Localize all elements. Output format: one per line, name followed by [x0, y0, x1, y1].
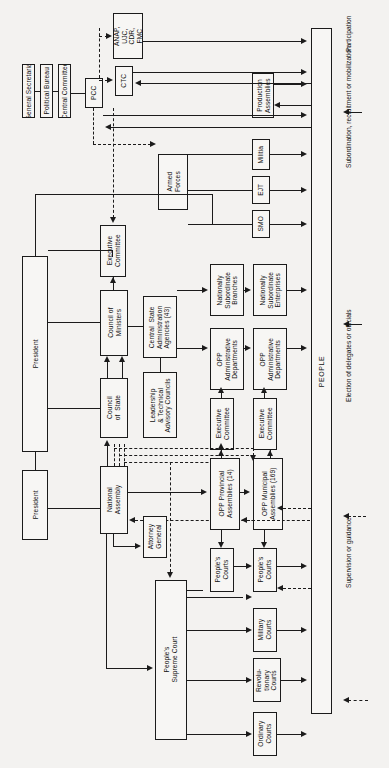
opp-provincial-label: OPP Provincial Assemblies (14): [217, 470, 232, 519]
box-central-committee: Central Committee: [58, 64, 71, 118]
arrow-execmun-oppadm: [261, 387, 267, 393]
box-president-top: President: [22, 256, 48, 452]
box-revolutionary-courts: Revolu- tionary Courts: [253, 658, 281, 702]
arrow-na-cos: [104, 440, 110, 446]
connector-pcc-people: [103, 115, 304, 116]
arrow-pcc-ctc: [107, 77, 113, 83]
arrow-cos-com-a: [104, 356, 110, 362]
pcc-label: PCC: [90, 86, 98, 100]
connector-ctc-people: [133, 72, 304, 73]
arrow-revolutionary-people: [301, 677, 307, 683]
arrow-supervision-psc: [167, 572, 173, 578]
connector-oppmun-oppprov-dash: [247, 520, 280, 521]
arrow-psc-pcmun: [246, 594, 252, 600]
peoples-courts-mun-label: People's Courts: [257, 557, 272, 583]
connector-af-smo: [188, 224, 252, 225]
connector-pcc-af-v: [93, 108, 94, 144]
national-assembly-label: National Assembly: [106, 485, 121, 514]
arrow-execprov-oppadm: [218, 387, 224, 393]
connector-na-ag-v: [113, 534, 114, 546]
arrow-oppprov-oppmun: [244, 489, 250, 495]
arrow-people-prodasm: [274, 102, 280, 108]
connector-pcc-af-h: [93, 144, 151, 145]
arrow-csaa-nsb: [202, 287, 208, 293]
box-anap-ujc-cdr-fmc: ANAP, UJC, CDR, FMC: [113, 13, 143, 59]
connector-psc-ordinary: [187, 734, 248, 735]
connector-ordinary-people: [277, 734, 304, 735]
exec-committee-mun-label: Executive Committee: [257, 408, 272, 441]
connector-pres-exec-v: [112, 250, 113, 257]
militia-label: Militia: [257, 146, 265, 164]
connector-oppprov-pcprov: [221, 530, 222, 542]
general-secretariat-label: General Secretariat: [25, 64, 33, 118]
connector-people-pcmun: [283, 588, 311, 589]
arrow-com-exec: [110, 277, 116, 283]
box-ordinary-courts: Ordinary Courts: [253, 712, 277, 756]
box-attorney-general: Attorney General: [143, 516, 167, 558]
box-military-courts: Military Courts: [253, 608, 277, 652]
central-state-agencies-label: Central State Administration Agencies (4…: [149, 305, 172, 348]
connector-af-ejt: [188, 190, 252, 191]
box-national-assembly: National Assembly: [100, 466, 128, 534]
box-executive-committee-top: Executive Committee: [100, 225, 126, 277]
connector-ejt-people: [270, 190, 304, 191]
opp-admin-mun-label: OPP Administrative Departments: [259, 338, 282, 381]
exec-committee-prov-label: Executive Committee: [214, 408, 229, 441]
box-opp-admin-departments-mun: OPP Administrative Departments: [253, 328, 287, 390]
anap-label: ANAP, UJC, CDR, FMC: [113, 26, 143, 45]
ctc-label: CTC: [120, 74, 128, 88]
arrow-oppadm-people: [301, 345, 307, 351]
box-smo: SMO: [252, 210, 270, 238]
connector-cos-com-b: [122, 362, 123, 378]
connector-supervision-psc: [170, 462, 171, 572]
president-top-label: President: [31, 340, 39, 369]
arrow-nse-people: [301, 287, 307, 293]
legend-subordination-label: Subordination, recruitment or mobilizati…: [345, 46, 352, 168]
box-general-secretariat: General Secretariat: [22, 64, 35, 118]
box-council-of-ministers: Council of Ministers: [100, 290, 128, 356]
box-peoples-courts-mun: People's Courts: [253, 548, 277, 592]
org-chart-canvas: PEOPLE General Secretariat Political Bur…: [0, 0, 389, 768]
arrow-psc-military: [246, 627, 252, 633]
arrow-oppadm-prov-mun: [245, 345, 251, 351]
connector-csaa-nsb: [177, 290, 203, 291]
arrow-people-ctc: [135, 80, 141, 86]
box-central-state-agencies: Central State Administration Agencies (4…: [143, 296, 177, 358]
connector-military-people: [277, 630, 304, 631]
box-armed-forces: Armed Forces: [158, 154, 188, 210]
arrow-people-pcmun: [277, 585, 283, 591]
arrow-oppmun-pcmun: [261, 542, 267, 548]
arrow-military-people: [301, 627, 307, 633]
arrow-oppmun-oppprov: [241, 517, 247, 523]
arrow-election-na: [129, 517, 135, 523]
arrow-na-psc: [147, 665, 153, 671]
box-peoples-supreme-court: People's Supreme Court: [155, 580, 187, 740]
people-bar: PEOPLE: [311, 28, 332, 714]
connector-cos-com-a: [107, 362, 108, 378]
box-president-bottom: President: [22, 470, 48, 540]
peoples-courts-prov-label: People's Courts: [214, 557, 229, 583]
arrow-psc-revolutionary: [246, 677, 252, 683]
box-production-assemblies: Production Assemblies: [252, 73, 274, 118]
connector-prestop-presbottom: [35, 452, 36, 470]
ordinary-courts-label: Ordinary Courts: [257, 721, 272, 747]
ejt-label: EJT: [257, 184, 265, 196]
people-label: PEOPLE: [318, 355, 325, 387]
arrow-na-oppprov: [201, 489, 207, 495]
council-of-state-label: Council of State: [106, 395, 121, 420]
connector-pres-top-rail: [35, 194, 213, 195]
legend-election-label: Election of delegates or officials: [345, 309, 352, 402]
connector-psc-pcmun: [187, 597, 243, 598]
connector-pcmun-people: [277, 566, 304, 567]
arrow-prodasm-people: [301, 81, 307, 87]
peoples-supreme-court-label: People's Supreme Court: [163, 637, 178, 683]
arrow-ctc-people: [301, 69, 307, 75]
arrow-anap-people: [301, 38, 307, 44]
council-of-ministers-label: Council of Ministers: [106, 308, 121, 338]
arrow-oppprov-pcprov: [218, 542, 224, 548]
connector-prodasm-people: [274, 84, 304, 85]
box-pcc: PCC: [85, 78, 103, 108]
arrow-pcc-anap: [106, 33, 112, 39]
rail-supervision-2: [119, 455, 254, 456]
arrow-oppmun-exec: [267, 450, 273, 456]
